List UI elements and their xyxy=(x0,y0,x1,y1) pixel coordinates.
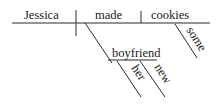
sentence-diagram: Jessica made cookies some boyfriend her … xyxy=(0,0,218,106)
modifier-her-word: her xyxy=(128,62,149,84)
direct-object-word: cookies xyxy=(151,8,189,22)
verb-word: made xyxy=(95,8,123,22)
object-modifier-word: some xyxy=(183,24,209,54)
subject-word: Jessica xyxy=(24,8,59,22)
indirect-object-diagonal xyxy=(85,23,112,63)
indirect-object-word: boyfriend xyxy=(112,46,161,60)
